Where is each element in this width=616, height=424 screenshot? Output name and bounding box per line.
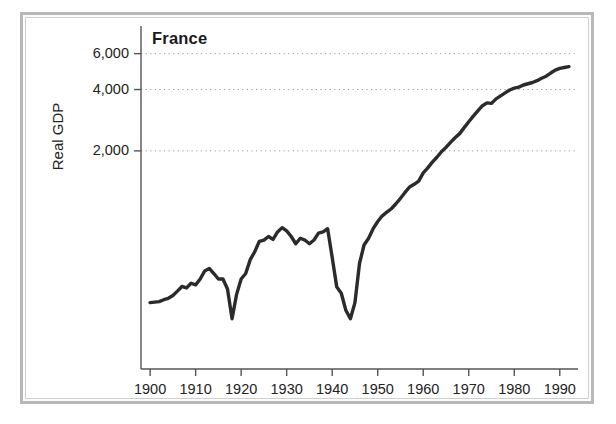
y-tick-label: 6,000 — [67, 45, 129, 61]
y-tick-label: 2,000 — [67, 142, 129, 158]
tick-marks — [134, 54, 560, 376]
page-title: France — [152, 29, 207, 48]
plot-area — [0, 0, 616, 424]
axis-lines — [141, 26, 578, 369]
gridlines — [141, 54, 578, 151]
y-axis-label: Real GDP — [49, 77, 66, 197]
x-tick-label: 1990 — [533, 381, 587, 397]
chart-figure: France Real GDP 2,0004,0006,000 19001910… — [0, 0, 616, 424]
data-series — [150, 67, 569, 319]
y-tick-label: 4,000 — [67, 81, 129, 97]
series-line-france — [150, 67, 569, 319]
